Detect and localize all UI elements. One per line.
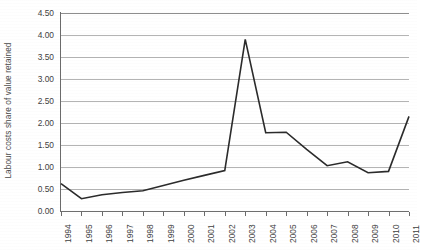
x-tick-label: 2010 xyxy=(392,224,401,243)
x-tick-label: 1996 xyxy=(105,224,114,243)
y-tick-label: 1.50 xyxy=(22,141,54,150)
x-tick-mark xyxy=(81,212,82,216)
x-tick-mark xyxy=(286,212,287,216)
x-tick-mark xyxy=(327,212,328,216)
x-tick-label: 2003 xyxy=(248,224,257,243)
x-tick-label: 2005 xyxy=(289,224,298,243)
x-tick-mark xyxy=(122,212,123,216)
x-tick-mark xyxy=(409,212,410,216)
x-tick-label: 1995 xyxy=(85,224,94,243)
y-tick-label: 2.50 xyxy=(22,97,54,106)
x-tick-label: 2009 xyxy=(371,224,380,243)
x-axis-tick-labels: 1994199519961997199819992000200120022003… xyxy=(61,212,409,250)
data-series-line xyxy=(61,13,409,211)
x-tick-mark xyxy=(348,212,349,216)
x-tick-mark xyxy=(61,212,62,216)
x-tick-mark xyxy=(184,212,185,216)
x-tick-label: 1998 xyxy=(146,224,155,243)
y-tick-label: 4.50 xyxy=(22,9,54,18)
x-tick-label: 2008 xyxy=(351,224,360,243)
x-tick-mark xyxy=(266,212,267,216)
y-tick-label: 0.00 xyxy=(22,207,54,216)
y-tick-label: 3.50 xyxy=(22,53,54,62)
y-tick-label: 0.50 xyxy=(22,185,54,194)
y-tick-label: 2.00 xyxy=(22,119,54,128)
plot-area xyxy=(61,13,409,211)
x-tick-mark xyxy=(225,212,226,216)
x-tick-mark xyxy=(204,212,205,216)
y-tick-label: 4.00 xyxy=(22,31,54,40)
x-tick-mark xyxy=(245,212,246,216)
y-axis-tick-labels: 4.504.003.503.002.502.001.501.000.500.00 xyxy=(22,0,54,250)
x-tick-mark xyxy=(143,212,144,216)
y-tick-label: 1.00 xyxy=(22,163,54,172)
y-axis-title: Labour costs share of value retained xyxy=(2,3,16,218)
x-tick-mark xyxy=(163,212,164,216)
x-tick-mark xyxy=(307,212,308,216)
x-tick-label: 2001 xyxy=(207,224,216,243)
x-tick-label: 2011 xyxy=(412,225,421,243)
x-tick-label: 2007 xyxy=(330,224,339,243)
y-tick-label: 3.00 xyxy=(22,75,54,84)
x-tick-label: 2004 xyxy=(269,224,278,243)
x-tick-mark xyxy=(102,212,103,216)
x-tick-label: 1994 xyxy=(64,224,73,243)
x-tick-mark xyxy=(389,212,390,216)
x-tick-label: 2006 xyxy=(310,224,319,243)
x-tick-label: 2002 xyxy=(228,224,237,243)
x-tick-label: 1999 xyxy=(167,224,176,243)
x-tick-mark xyxy=(368,212,369,216)
x-tick-label: 1997 xyxy=(126,224,135,243)
x-tick-label: 2000 xyxy=(187,224,196,243)
